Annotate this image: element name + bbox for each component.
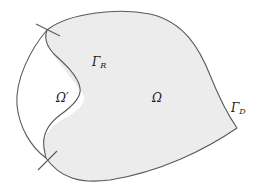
omega-prime-text: Ω′ xyxy=(56,91,69,105)
gamma-d-label: ΓD xyxy=(231,102,246,116)
omega-prime-outer-arc xyxy=(17,30,47,158)
gamma-r-sub: R xyxy=(100,61,106,70)
gamma-d-sub: D xyxy=(239,107,245,116)
omega-label: Ω xyxy=(152,92,162,104)
domain-diagram xyxy=(0,0,259,190)
omega-prime-label: Ω′ xyxy=(56,92,69,104)
omega-region xyxy=(43,11,237,181)
omega-text: Ω xyxy=(152,91,162,105)
gamma-r-label: ΓR xyxy=(92,56,106,70)
